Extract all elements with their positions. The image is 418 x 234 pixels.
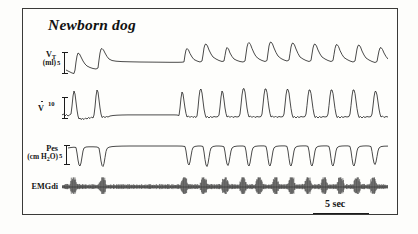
scale-bar-pes (66, 145, 67, 165)
channel-unit-pes: (cm H2O) (14, 153, 58, 162)
scale-bar-vt (64, 52, 65, 74)
figure-title: Newborn dog (48, 16, 136, 34)
channel-label-flow-text: V (38, 104, 44, 113)
channel-label-emgdi: EMGdi (18, 182, 58, 191)
scale-value-flow: 10 (48, 100, 55, 107)
scale-value-vt: 5 (57, 59, 60, 66)
figure-panel: Newborn dog VT (ml) 5 V 10 Pes (cm H2O) … (0, 0, 418, 234)
time-scale-label: 5 sec (325, 198, 345, 209)
trace-vt (66, 40, 388, 82)
trace-pes (68, 140, 388, 176)
channel-label-pes: Pes (cm H2O) (14, 144, 58, 162)
channel-label-emgdi-text: EMGdi (32, 182, 58, 191)
trace-flow (62, 88, 388, 132)
trace-emgdi (62, 176, 388, 196)
channel-label-vt: VT (ml) (26, 50, 56, 68)
channel-label-flow: V (26, 104, 44, 113)
time-scale-bar (313, 213, 369, 214)
channel-unit-vt: (ml) (26, 59, 56, 68)
scale-value-pes: 5 (59, 152, 62, 159)
